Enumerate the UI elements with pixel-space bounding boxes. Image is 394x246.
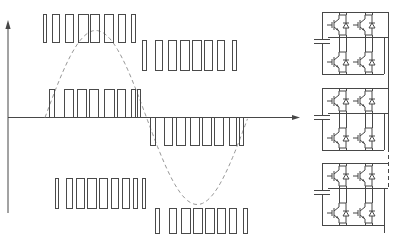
x-axis-arrowhead (292, 115, 300, 120)
pwm-pulse (77, 90, 86, 118)
pwm-pulse (78, 14, 88, 42)
cell-wires-cell-1 (314, 12, 388, 74)
cell-devices-cell-1 (327, 15, 375, 72)
diode-triangle (369, 23, 375, 28)
igbt-diode-unit (353, 52, 375, 72)
pwm-pulse (229, 208, 236, 233)
diode-triangle (369, 211, 375, 216)
pwm-pulse (169, 208, 176, 233)
pwm-pulse (150, 118, 155, 146)
pwm-pulse (118, 14, 125, 42)
pwm-pulse (155, 40, 162, 70)
pwm-pulse (66, 178, 72, 208)
igbt-diode-unit (327, 128, 349, 148)
pwm-pulse (89, 90, 98, 118)
cell-wires-cell-2 (314, 88, 388, 150)
diode-triangle (369, 99, 375, 104)
pwm-pulse (65, 14, 73, 42)
pwm-pulse (229, 118, 236, 146)
igbt-diode-unit (327, 15, 349, 35)
pwm-pulse (204, 40, 212, 70)
pwm-pulse (180, 40, 189, 70)
igbt-diode-unit (327, 166, 349, 186)
pwm-pulse (104, 90, 114, 118)
pulse-group-cell3-negative (155, 208, 247, 233)
pwm-pulse-groups (43, 14, 247, 233)
igbt-diode-unit (353, 91, 375, 111)
pwm-pulse (90, 14, 99, 42)
pwm-pulse (214, 118, 223, 146)
pwm-pulse (168, 40, 176, 70)
igbt-diode-unit (353, 15, 375, 35)
pwm-pulse (99, 178, 107, 208)
igbt-diode-unit (353, 203, 375, 223)
pwm-pulse (217, 208, 225, 233)
cell-wires-cell-3 (314, 163, 388, 225)
igbt-diode-unit (353, 166, 375, 186)
pulse-group-cell1-negative (142, 40, 236, 70)
pwm-pulse (122, 178, 129, 208)
pwm-pulse (217, 40, 224, 70)
pulse-group-cell3-positive (55, 178, 145, 208)
pwm-chb-figure (0, 0, 394, 246)
igbt-diode-unit (353, 128, 375, 148)
igbt-diode-unit (327, 203, 349, 223)
diode-triangle (343, 174, 349, 179)
pwm-pulse (239, 118, 243, 146)
pwm-pulse (104, 14, 113, 42)
pwm-pulse (131, 90, 135, 118)
pwm-pulse (142, 40, 146, 70)
pwm-pulse (193, 208, 202, 233)
pwm-pulse (52, 14, 59, 42)
igbt-diode-unit (327, 91, 349, 111)
pwm-pulse (155, 208, 159, 233)
pwm-pulse (55, 178, 58, 208)
pwm-pulse (49, 90, 54, 118)
pwm-pulse (133, 178, 137, 208)
pwm-pulse (202, 118, 211, 146)
pwm-pulse (137, 90, 140, 118)
diode-triangle (369, 60, 375, 65)
pwm-pulse (117, 90, 125, 118)
figure-canvas (0, 0, 394, 246)
pwm-pulse (164, 118, 172, 146)
diode-triangle (343, 99, 349, 104)
pwm-pulse (76, 178, 84, 208)
y-axis-arrowhead (5, 20, 10, 29)
diode-triangle (369, 136, 375, 141)
diode-triangle (343, 60, 349, 65)
pwm-pulse (131, 14, 135, 42)
pwm-pulse (243, 208, 247, 233)
pwm-pulse (190, 118, 199, 146)
pwm-pulse (87, 178, 96, 208)
diode-triangle (369, 174, 375, 179)
pulse-group-cell2-positive (49, 90, 140, 118)
pwm-pulse (64, 90, 73, 118)
igbt-diode-unit (327, 52, 349, 72)
pulse-group-cell1-positive (43, 14, 135, 42)
pwm-pulse (142, 178, 145, 208)
cell-devices-cell-3 (327, 166, 375, 223)
pwm-pulse (192, 40, 201, 70)
cell-devices-cell-2 (327, 91, 375, 148)
pwm-pulse (43, 14, 46, 42)
pwm-pulse (181, 208, 190, 233)
pulse-group-cell2-negative (150, 118, 243, 146)
diode-triangle (343, 211, 349, 216)
diode-triangle (343, 136, 349, 141)
diode-triangle (343, 23, 349, 28)
pwm-pulse (205, 208, 214, 233)
pwm-pulse (176, 118, 185, 146)
chb-circuit-devices (327, 15, 375, 223)
chb-circuit-wires (314, 12, 388, 233)
pwm-pulse (111, 178, 118, 208)
pwm-pulse (232, 40, 236, 70)
